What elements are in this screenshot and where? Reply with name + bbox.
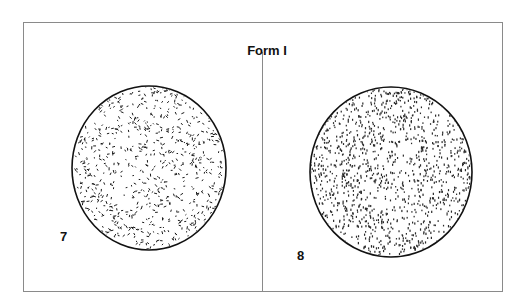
panel-label-8: 8	[297, 248, 304, 263]
circle-7	[72, 86, 226, 250]
particle-circles	[0, 0, 531, 307]
panel-label-7: 7	[60, 229, 67, 244]
